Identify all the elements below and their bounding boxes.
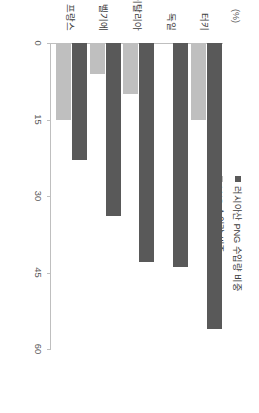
category-label: 터키 (198, 13, 212, 31)
y-axis-tick-label: 45 (33, 267, 43, 277)
y-axis-tick-label: 30 (33, 191, 43, 201)
square-icon-png (235, 176, 241, 182)
category-label: 벨기에 (97, 4, 111, 31)
y-axis-tick (47, 273, 51, 274)
y-axis-tick (47, 120, 51, 121)
plot-area (55, 43, 223, 349)
category-label: 이탈리아 (131, 0, 145, 31)
bar-png (140, 43, 155, 262)
axis-unit-label: (%) (231, 9, 241, 23)
y-axis-tick (47, 43, 51, 44)
legend-item-png: 러시아산 PNG 수입량 비중 (231, 176, 245, 292)
bar-png (72, 43, 87, 160)
bar-lng (124, 43, 139, 94)
legend-label-png: 러시아산 PNG 수입량 비중 (231, 186, 245, 292)
bar-png (173, 43, 188, 267)
category-label: 독일 (165, 13, 179, 31)
category-label: 프랑스 (64, 4, 78, 31)
y-axis-tick-label: 0 (33, 40, 43, 45)
bar-png (106, 43, 121, 216)
y-axis-tick (47, 196, 51, 197)
bar-lng (191, 43, 206, 120)
bar-chart-figure: 러시아산 PNG 수입량 비중 LNG 수입량 비중 (%) 015304560… (0, 0, 259, 413)
y-axis-tick (47, 349, 51, 350)
rotated-figure-wrapper: 러시아산 PNG 수입량 비중 LNG 수입량 비중 (%) 015304560… (0, 0, 259, 413)
bar-png (207, 43, 222, 329)
bar-lng (56, 43, 71, 120)
bar-lng (90, 43, 105, 74)
y-axis-tick-label: 15 (33, 114, 43, 124)
y-axis-tick-label: 60 (33, 344, 43, 354)
